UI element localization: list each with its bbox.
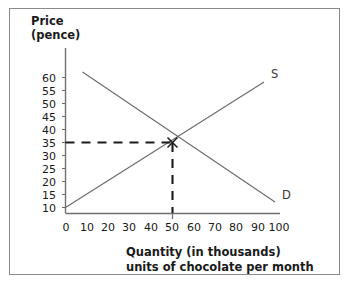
chart-figure: Price (pence) — [9, 8, 340, 275]
y-tick-label: 60 — [32, 73, 56, 84]
supply-demand-plot — [10, 9, 341, 276]
y-tick-label: 35 — [32, 138, 56, 149]
y-tick-label: 25 — [32, 164, 56, 175]
y-tick-label: 55 — [32, 86, 56, 97]
y-tick-label: 15 — [32, 190, 56, 201]
x-tick-label: 100 — [264, 222, 294, 233]
x-axis-caption-line-1: Quantity (in thousands) — [126, 245, 314, 260]
y-tick-label: 20 — [32, 177, 56, 188]
demand-curve-label: D — [282, 190, 291, 201]
x-axis-caption: Quantity (in thousands) units of chocola… — [126, 245, 314, 274]
x-axis-caption-line-2: units of chocolate per month — [126, 260, 314, 275]
supply-curve-label: S — [271, 69, 278, 80]
y-tick-label: 40 — [32, 125, 56, 136]
y-tick-label: 10 — [32, 203, 56, 214]
y-tick-label: 50 — [32, 99, 56, 110]
supply-curve — [66, 82, 265, 208]
y-tick-label: 30 — [32, 151, 56, 162]
y-tick-label: 45 — [32, 112, 56, 123]
demand-curve — [83, 72, 276, 202]
